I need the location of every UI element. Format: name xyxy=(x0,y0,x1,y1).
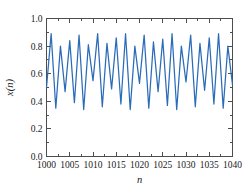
chart-figure: 100010051010101510201025103010351040 0.0… xyxy=(0,0,251,196)
y-tick-label: 0.4 xyxy=(31,97,43,107)
x-tick-label: 1015 xyxy=(107,160,126,170)
x-tick-label: 1035 xyxy=(200,160,219,170)
x-tick-label: 1040 xyxy=(223,160,242,170)
x-tick-label: 1030 xyxy=(177,160,196,170)
y-tick-label: 1.0 xyxy=(31,14,43,24)
x-axis-tick-labels: 100010051010101510201025103010351040 xyxy=(37,160,242,170)
y-tick-label: 0.2 xyxy=(31,124,43,134)
x-tick-label: 1010 xyxy=(84,160,103,170)
line-chart-canvas: 100010051010101510201025103010351040 0.0… xyxy=(0,0,251,196)
x-axis-title: n xyxy=(137,174,142,185)
x-tick-label: 1025 xyxy=(153,160,172,170)
y-axis-title: x(n) xyxy=(4,79,16,97)
y-tick-label: 0.6 xyxy=(31,69,43,79)
y-tick-label: 0.8 xyxy=(31,42,43,52)
x-tick-label: 1005 xyxy=(60,160,79,170)
y-tick-label: 0.0 xyxy=(31,152,43,162)
x-tick-label: 1020 xyxy=(130,160,149,170)
